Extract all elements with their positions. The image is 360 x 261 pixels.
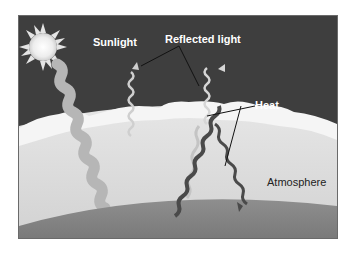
leader-line [141, 46, 179, 66]
leader-line [179, 46, 199, 86]
reflected-light-label: Reflected light [165, 33, 241, 45]
arrowhead-icon [218, 64, 225, 72]
diagram-frame: Sunlight Reflected light Heat Atmosphere [18, 15, 338, 239]
atmosphere-label: Atmosphere [267, 176, 326, 188]
greenhouse-diagram [19, 16, 337, 238]
arrowhead-icon [132, 62, 139, 70]
sunlight-label: Sunlight [93, 36, 137, 48]
heat-label: Heat [255, 99, 279, 111]
